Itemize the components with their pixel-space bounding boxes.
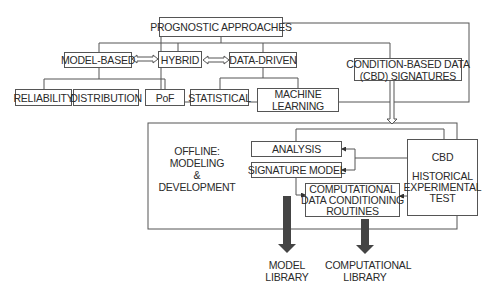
hybrid-label: HYBRID: [161, 54, 199, 66]
statistical-node: STATISTICAL: [190, 89, 249, 106]
computational-routines-line1: COMPUTATIONAL: [309, 184, 395, 195]
data-driven-label: DATA-DRIVEN: [229, 54, 296, 66]
computational-routines-line3: ROUTINES: [326, 206, 379, 217]
model-library-arrow: [278, 196, 296, 253]
offline-label-line2: MODELING: [157, 157, 237, 169]
root-label: PROGNOSTIC APPROACHES: [150, 21, 292, 33]
data-driven-node: DATA-DRIVEN: [229, 52, 297, 68]
cbd-historical-line3: EXPERIMENTAL: [404, 182, 482, 193]
model-library-line2: LIBRARY: [257, 271, 317, 283]
computational-library-line2: LIBRARY: [325, 271, 405, 283]
cbd-historical-line4: TEST: [429, 193, 455, 204]
pof-node: PoF: [145, 89, 185, 106]
signature-model-node: SIGNATURE MODEL: [251, 162, 342, 178]
cbd-historical-line1: CBD: [432, 152, 454, 163]
computational-routines-line2: DATA CONDITIONING: [301, 195, 404, 206]
offline-label-line3: &: [157, 169, 237, 181]
distribution-node: DISTRIBUTION: [73, 89, 139, 106]
computational-library-line1: COMPUTATIONAL: [325, 259, 405, 271]
cbd-historical-node: CBD HISTORICAL EXPERIMENTAL TEST: [407, 139, 478, 216]
statistical-label: STATISTICAL: [188, 92, 251, 104]
cbd-signatures-label-line1: CONDITION-BASED DATA: [346, 58, 469, 70]
cbd-signatures-node: CONDITION-BASED DATA (CBD) SIGNATURES: [354, 58, 462, 81]
computational-library-arrow: [356, 219, 374, 254]
analysis-label: ANALYSIS: [272, 143, 321, 155]
reliability-label: RELIABILITY: [13, 92, 73, 104]
double-arrow-model-hybrid: [132, 55, 158, 63]
distribution-label: DISTRIBUTION: [70, 92, 142, 104]
analysis-node: ANALYSIS: [251, 141, 342, 157]
double-arrow-hybrid-data: [203, 56, 229, 64]
cbd-historical-line2: HISTORICAL: [412, 171, 473, 182]
offline-label: OFFLINE: MODELING & DEVELOPMENT: [157, 145, 237, 193]
cbd-signatures-label-line2: (CBD) SIGNATURES: [360, 70, 456, 82]
machine-learning-node: MACHINE LEARNING: [257, 88, 339, 112]
model-based-node: MODEL-BASED: [64, 52, 132, 68]
machine-learning-label-line1: MACHINE: [274, 88, 321, 100]
computational-library-label: COMPUTATIONAL LIBRARY: [325, 259, 405, 283]
machine-learning-label-line2: LEARNING: [272, 100, 324, 112]
signature-model-label: SIGNATURE MODEL: [248, 164, 346, 176]
hybrid-node: HYBRID: [158, 51, 202, 68]
computational-routines-node: COMPUTATIONAL DATA CONDITIONING ROUTINES: [305, 183, 400, 217]
offline-label-line4: DEVELOPMENT: [157, 181, 237, 193]
offline-label-line1: OFFLINE:: [157, 145, 237, 157]
root-node: PROGNOSTIC APPROACHES: [159, 17, 283, 37]
model-library-line1: MODEL: [257, 259, 317, 271]
model-based-label: MODEL-BASED: [61, 54, 135, 66]
reliability-node: RELIABILITY: [15, 89, 72, 106]
model-library-label: MODEL LIBRARY: [257, 259, 317, 283]
pof-label: PoF: [156, 92, 175, 104]
